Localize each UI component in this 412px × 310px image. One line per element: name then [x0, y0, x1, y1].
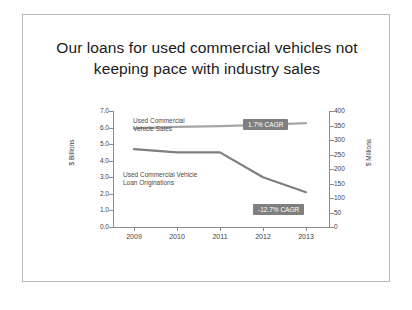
cagr-badge-originations: -12.7% CAGR — [253, 204, 304, 215]
chart-container: 7.0 6.0 5.0 4.0 3.0 2.0 1.0 0.0 400 350 … — [57, 99, 367, 259]
series-label-originations: Used Commercial Vehicle Loan Origination… — [123, 171, 199, 187]
cagr-badge-sales: 1.7% CAGR — [243, 119, 288, 130]
slide-canvas: Our loans for used commercial vehicles n… — [22, 14, 390, 282]
series-label-sales: Used Commercial Vehicle Sales — [133, 117, 203, 133]
chart-series-layer — [57, 99, 367, 259]
slide-title: Our loans for used commercial vehicles n… — [41, 37, 373, 79]
